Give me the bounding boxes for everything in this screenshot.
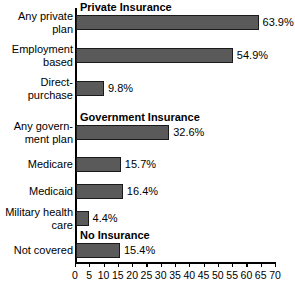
bar-value-label: 63.9%: [263, 15, 294, 30]
x-axis-tick: [204, 262, 205, 267]
category-label-line: based: [0, 56, 73, 69]
category-label-line: Not covered: [0, 244, 73, 257]
x-axis-tick: [161, 262, 162, 267]
category-label: Any govern-ment plan: [0, 120, 73, 145]
x-axis-tick: [218, 262, 219, 267]
category-label: Military healthcare: [0, 206, 73, 231]
category-label-line: ment plan: [0, 133, 73, 146]
bar-value-label: 54.9%: [237, 48, 268, 63]
category-label-line: Military health: [0, 206, 73, 219]
section-header: Government Insurance: [80, 111, 200, 123]
category-label: Not covered: [0, 244, 73, 257]
x-axis-tick: [146, 262, 147, 267]
bar: [76, 81, 104, 96]
bar: [76, 157, 121, 172]
bar: [76, 48, 233, 63]
category-label: Employmentbased: [0, 43, 73, 68]
category-label-line: Employment: [0, 43, 73, 56]
category-label-line: purchase: [0, 89, 73, 102]
x-axis-tick: [275, 262, 276, 267]
x-axis-tick: [89, 262, 90, 267]
bar-value-label: 15.4%: [124, 243, 155, 258]
x-axis-tick: [132, 262, 133, 267]
bar-value-label: 4.4%: [93, 211, 118, 226]
x-axis-tick: [232, 262, 233, 267]
x-axis-tick: [104, 262, 105, 267]
bar-value-label: 32.6%: [173, 125, 204, 140]
x-axis-tick-label: 70: [263, 269, 287, 282]
category-label-line: Medicare: [0, 158, 73, 171]
section-header: Private Insurance: [80, 1, 172, 13]
category-label: Direct-purchase: [0, 76, 73, 101]
category-label-line: Medicaid: [0, 185, 73, 198]
bar: [76, 243, 120, 258]
bar: [76, 125, 169, 140]
x-axis-tick: [75, 262, 76, 267]
bar: [76, 15, 259, 30]
category-label: Medicaid: [0, 185, 73, 198]
x-axis-tick: [118, 262, 119, 267]
category-label: Medicare: [0, 158, 73, 171]
bar-value-label: 15.7%: [125, 157, 156, 172]
bar: [76, 184, 123, 199]
x-axis-tick: [189, 262, 190, 267]
health-insurance-coverage-bar-chart: 0510152025303540455055606570 Private Ins…: [0, 0, 295, 293]
category-label-line: Any private: [0, 10, 73, 23]
bar-value-label: 9.8%: [108, 81, 133, 96]
bar-value-label: 16.4%: [127, 184, 158, 199]
category-label-line: Any govern-: [0, 120, 73, 133]
bar: [76, 211, 89, 226]
category-label-line: care: [0, 219, 73, 232]
category-label-line: plan: [0, 23, 73, 36]
section-header: No Insurance: [80, 229, 150, 241]
x-axis-tick: [261, 262, 262, 267]
category-label: Any privateplan: [0, 10, 73, 35]
x-axis-tick: [246, 262, 247, 267]
category-label-line: Direct-: [0, 76, 73, 89]
x-axis-tick: [175, 262, 176, 267]
